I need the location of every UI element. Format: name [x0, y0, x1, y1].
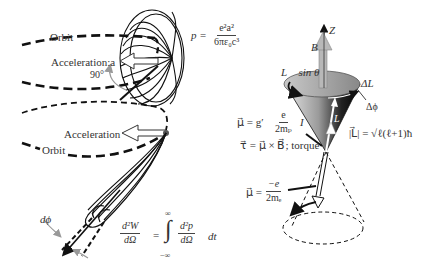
energy-lhs-numerator: d²W: [120, 221, 140, 234]
mu-electron-lhs: μ⃗ =: [246, 187, 262, 198]
orbit-path-top: [22, 35, 155, 45]
mu-electron-fraction: −e 2mₑ: [266, 179, 281, 203]
orbit-path-bottom: [22, 143, 40, 149]
mu-proton-fraction: e 2mₚ: [275, 110, 292, 134]
mu-proton-numerator: e: [279, 110, 287, 123]
energy-rhs-numerator: d²p: [178, 221, 195, 234]
energy-rhs-denominator: dΩ: [180, 234, 192, 246]
z-axis-label: Z: [329, 25, 335, 36]
acceleration-label: Acceleration: [64, 129, 120, 140]
delta-phi-label: Δϕ: [366, 102, 378, 112]
power-formula-denominator: 6πε₀c³: [214, 36, 239, 48]
mu-electron-numerator: −e: [266, 179, 281, 192]
energy-formula-dt: dt: [208, 231, 217, 242]
angular-momentum-formula: |L⃗| = √ℓ(ℓ+1)ħ: [349, 128, 412, 139]
torque-formula: τ⃗ = μ⃗ × B⃗; torque: [240, 140, 319, 151]
l-vector-label: L⃗: [334, 114, 347, 124]
mu-electron-denominator: 2mₑ: [266, 192, 281, 204]
energy-formula-lhs: d²W dΩ: [120, 221, 140, 245]
energy-formula-equals: =: [153, 230, 159, 241]
mu-proton-current: I: [300, 117, 304, 128]
integral-sign: ∫: [165, 217, 172, 241]
dphi-label: dϕ: [40, 214, 51, 225]
l-sin-theta-label: L⃗ sin θ: [281, 67, 319, 78]
acceleration-arrow-bottom: [122, 125, 166, 141]
orbit-path-bottom-2: [68, 138, 158, 156]
power-formula-fraction: e²a² 6πε₀c³: [214, 23, 239, 47]
orbit-path-lower: [22, 102, 167, 130]
mu-proton-denominator: 2mₚ: [275, 123, 292, 135]
lower-cone-ellipse: [283, 212, 363, 244]
beamed-radiation-lobe: [85, 133, 166, 227]
energy-formula-rhs: d²p dΩ: [178, 221, 195, 245]
integral-lower-limit: −∞: [160, 252, 170, 260]
angle-90-label: 90°: [90, 70, 104, 80]
power-formula-numerator: e²a²: [217, 23, 236, 36]
acceleration-a-label: Acceleration:a: [51, 57, 115, 68]
b-field-label: B⃗: [311, 42, 326, 53]
mu-proton-lhs: μ⃗ = g′: [237, 117, 264, 128]
orbit-label-top: Orbit: [50, 32, 73, 43]
orbit-path-middle: [22, 78, 150, 89]
power-formula-lhs: p =: [191, 30, 207, 41]
delta-l-label: ΔL⃗: [361, 78, 382, 89]
orbit-label-bottom: Orbit: [42, 145, 65, 156]
energy-lhs-denominator: dΩ: [124, 234, 136, 246]
